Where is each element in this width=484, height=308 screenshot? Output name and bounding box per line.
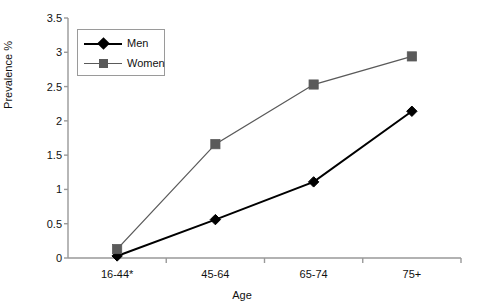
y-tick-label: 3 [24, 46, 62, 58]
x-axis-title: Age [0, 289, 484, 301]
chart-legend: Men Women [77, 29, 165, 76]
y-tick-label: 2 [24, 115, 62, 127]
x-tick-label: 65-74 [300, 268, 328, 280]
x-tick-label: 75+ [403, 268, 422, 280]
legend-item-men: Men [82, 33, 148, 53]
y-tick-label: 1 [24, 183, 62, 195]
legend-label-men: Men [124, 37, 148, 49]
y-tick-label: 0.5 [24, 218, 62, 230]
y-tick-label: 1.5 [24, 149, 62, 161]
plot-canvas [0, 0, 484, 308]
x-tick-label: 45-64 [201, 268, 229, 280]
legend-label-women: Women [124, 57, 165, 69]
y-tick-label: 0 [24, 252, 62, 264]
y-axis-title: Prevalence % [2, 20, 14, 130]
legend-swatch-men [82, 35, 124, 51]
y-tick-label: 3.5 [24, 12, 62, 24]
y-tick-label: 2.5 [24, 81, 62, 93]
diamond-marker-icon [97, 37, 110, 50]
prevalence-by-age-line-chart: Prevalence % Age 00.511.522.533.516-44*4… [0, 0, 484, 308]
legend-item-women: Women [82, 53, 165, 73]
x-tick-label: 16-44* [101, 268, 133, 280]
square-marker-icon [99, 59, 108, 68]
legend-swatch-women [82, 55, 124, 71]
